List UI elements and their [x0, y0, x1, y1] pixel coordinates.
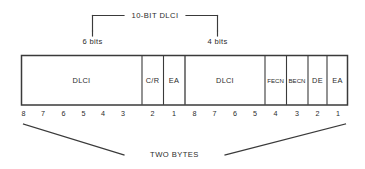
six-bits-label: 6 bits — [83, 38, 103, 46]
field-dlci-byte1: DLCI — [73, 77, 91, 84]
field-ea-byte2: EA — [332, 77, 342, 84]
field-becn: BECN — [289, 77, 306, 83]
two-bytes-label: TWO BYTES — [150, 151, 199, 159]
bit-number-byte1-8: 8 — [21, 110, 25, 117]
bit-number-byte2-6: 6 — [233, 110, 237, 117]
bit-number-byte1-4: 4 — [101, 110, 105, 117]
four-bits-label: 4 bits — [208, 38, 228, 46]
field-cr: C/R — [146, 77, 159, 84]
bit-number-byte2-1: 1 — [336, 110, 340, 117]
bit-number-byte2-7: 7 — [212, 110, 216, 117]
bit-number-byte2-8: 8 — [192, 110, 196, 117]
field-de: DE — [312, 77, 323, 84]
span-ticks — [93, 31, 218, 36]
bit-number-byte1-1: 1 — [172, 110, 176, 117]
bit-number-byte1-7: 7 — [41, 110, 45, 117]
bit-number-byte2-3: 3 — [295, 110, 299, 117]
diagram-linework — [0, 0, 365, 169]
field-dlci-byte2: DLCI — [216, 77, 234, 84]
bit-number-byte1-5: 5 — [81, 110, 85, 117]
bit-number-byte1-2: 2 — [150, 110, 154, 117]
field-fecn: FECN — [267, 77, 284, 83]
bit-number-byte2-2: 2 — [315, 110, 319, 117]
bit-number-byte1-6: 6 — [61, 110, 65, 117]
ten-bit-dlci-label: 10-BIT DLCI — [131, 12, 178, 20]
bit-number-byte2-4: 4 — [273, 110, 277, 117]
bit-number-byte2-5: 5 — [253, 110, 257, 117]
bit-number-byte1-3: 3 — [121, 110, 125, 117]
field-ea-byte1: EA — [169, 77, 179, 84]
frame-relay-header-diagram: 10-BIT DLCI 6 bits 4 bits DLCI C/R EA DL… — [0, 0, 365, 169]
